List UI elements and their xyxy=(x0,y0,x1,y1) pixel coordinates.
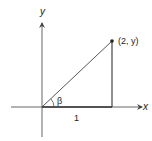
angle-arc-icon xyxy=(51,99,54,107)
base-length-label: 1 xyxy=(74,113,79,123)
hypotenuse-line xyxy=(42,41,112,107)
point-label: (2, y) xyxy=(118,36,139,46)
x-axis-label: x xyxy=(142,101,149,112)
point-marker xyxy=(110,39,114,43)
angle-label: β xyxy=(57,96,62,106)
y-axis-label: y xyxy=(39,6,46,17)
coordinate-diagram: y x (2, y) 1 β xyxy=(0,0,152,141)
